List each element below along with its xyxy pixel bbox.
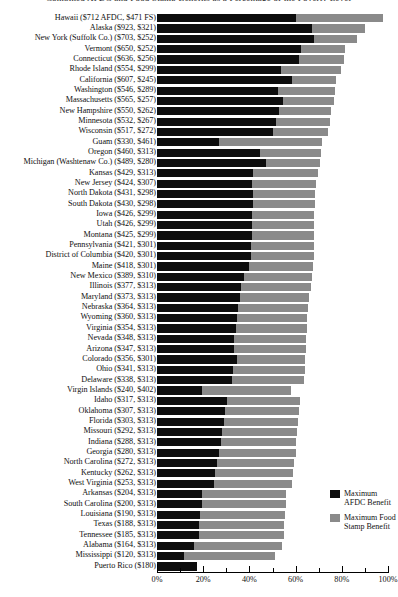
- bar-segment-food-stamp: [253, 190, 315, 198]
- bar-row: Oregon ($460, $313): [0, 147, 397, 157]
- bar-segment-food-stamp: [251, 242, 315, 250]
- legend-label: Maximum AFDC Benefit: [344, 489, 397, 508]
- stacked-bar: [157, 283, 388, 291]
- bar-segment-food-stamp: [251, 252, 315, 260]
- bar-segment-afdc: [157, 386, 202, 394]
- bar-row-label: New Hampshire ($550, $262): [60, 106, 156, 116]
- stacked-bar: [157, 138, 388, 146]
- stacked-bar: [157, 190, 388, 198]
- bar-row-label: Georgia ($280, $313): [86, 447, 156, 457]
- bar-row: Virgin Islands ($240, $402): [0, 385, 397, 395]
- bar-row-label: Minnesota ($532, $267): [78, 116, 156, 126]
- bar-row: Delaware ($338, $313): [0, 375, 397, 385]
- bar-segment-food-stamp: [266, 159, 320, 167]
- bar-segment-food-stamp: [253, 169, 318, 177]
- bar-row-label: Nevada ($348, $313): [88, 333, 156, 343]
- bar-segment-food-stamp: [202, 500, 286, 508]
- bar-segment-afdc: [157, 231, 252, 239]
- bar-segment-food-stamp: [299, 55, 344, 63]
- bar-row-label: Pennsylvania ($421, $301): [69, 240, 156, 250]
- bar-row-label: North Dakota ($431, $298): [68, 188, 156, 198]
- stacked-bar: [157, 107, 388, 115]
- bar-segment-afdc: [157, 273, 244, 281]
- bar-segment-food-stamp: [292, 76, 336, 84]
- bar-segment-afdc: [157, 149, 260, 157]
- bar-row-label: Alabama ($164, $313): [83, 540, 156, 550]
- bar-row: Virginia ($354, $313): [0, 323, 397, 333]
- stacked-bar: [157, 211, 388, 219]
- bar-segment-food-stamp: [312, 24, 365, 32]
- bar-row-label: Arkansas ($204, $313): [82, 488, 156, 498]
- bar-row-label: Guam ($330, $461): [92, 137, 156, 147]
- bar-row: Iowa ($426, $299): [0, 210, 397, 220]
- bar-row-label: Nebraska ($364, $313): [82, 302, 156, 312]
- bar-segment-afdc: [157, 45, 301, 53]
- stacked-bar: [157, 449, 388, 457]
- bar-row: Vermont ($650, $252): [0, 44, 397, 54]
- bar-segment-afdc: [157, 118, 276, 126]
- stacked-bar: [157, 469, 388, 477]
- bar-row-label: Virginia ($354, $313): [86, 323, 156, 333]
- bar-segment-afdc: [157, 169, 253, 177]
- bar-row: West Virginia ($253, $313): [0, 478, 397, 488]
- bar-segment-food-stamp: [234, 345, 306, 353]
- bar-segment-afdc: [157, 345, 234, 353]
- bar-row: Kentucky ($262, $313): [0, 468, 397, 478]
- bar-row: Indiana ($288, $313): [0, 437, 397, 447]
- bar-segment-afdc: [157, 562, 197, 570]
- bar-segment-food-stamp: [237, 355, 305, 363]
- bar-segment-afdc: [157, 87, 278, 95]
- bar-row: Maine ($418, $301): [0, 261, 397, 271]
- stacked-bar: [157, 304, 388, 312]
- x-axis-tick-major: [342, 566, 343, 573]
- bar-row-label: Mississippi ($120, $313): [76, 550, 156, 560]
- x-axis-tick-major: [249, 566, 250, 573]
- bar-segment-afdc: [157, 242, 251, 250]
- bar-row: New Hampshire ($550, $262): [0, 106, 397, 116]
- bar-row: Rhode Island ($554, $299): [0, 65, 397, 75]
- stacked-bar: [157, 480, 388, 488]
- bar-segment-afdc: [157, 76, 292, 84]
- stacked-bar: [157, 14, 388, 22]
- chart-legend: Maximum AFDC BenefitMaximum Food Stamp B…: [330, 489, 397, 537]
- bar-row-label: Vermont ($650, $252): [84, 44, 156, 54]
- bar-segment-food-stamp: [222, 428, 297, 436]
- bar-rows: Hawaii ($712 AFDC, $471 FS)Alaska ($923,…: [0, 13, 397, 572]
- bar-row-label: Alaska ($923, $321): [90, 23, 156, 33]
- x-axis-tick-minor: [365, 568, 366, 573]
- bar-row-label: Oregon ($460, $313): [88, 147, 156, 157]
- bar-row: Pennsylvania ($421, $301): [0, 241, 397, 251]
- bar-segment-afdc: [157, 366, 233, 374]
- bar-segment-afdc: [157, 521, 199, 529]
- bar-row-label: Virgin Islands ($240, $402): [67, 385, 156, 395]
- bar-segment-afdc: [157, 35, 314, 43]
- bar-row: New York (Suffolk Co.) ($703, $252): [0, 34, 397, 44]
- bar-row-label: North Carolina ($272, $313): [64, 457, 156, 467]
- bar-segment-food-stamp: [252, 211, 314, 219]
- stacked-bar: [157, 459, 388, 467]
- bar-segment-food-stamp: [283, 97, 334, 105]
- bar-row-label: Tennessee ($185, $313): [79, 530, 156, 540]
- stacked-bar: [157, 200, 388, 208]
- bar-segment-food-stamp: [199, 521, 284, 529]
- stacked-bar: [157, 397, 388, 405]
- x-axis-tick-major: [203, 566, 204, 573]
- bar-segment-food-stamp: [194, 542, 282, 550]
- bar-segment-afdc: [157, 418, 224, 426]
- legend-item: Maximum Food Stamp Benefit: [330, 513, 397, 532]
- bar-segment-food-stamp: [276, 118, 330, 126]
- stacked-bar: [157, 97, 388, 105]
- bar-segment-afdc: [157, 190, 253, 198]
- bar-row: Colorado ($356, $301): [0, 354, 397, 364]
- bar-row-label: Hawaii ($712 AFDC, $471 FS): [55, 13, 156, 23]
- bar-row: Nevada ($348, $313): [0, 334, 397, 344]
- bar-segment-afdc: [157, 500, 202, 508]
- bar-segment-afdc: [157, 531, 199, 539]
- stacked-bar: [157, 242, 388, 250]
- stacked-bar: [157, 542, 388, 550]
- bar-row: Alabama ($164, $313): [0, 541, 397, 551]
- bar-segment-afdc: [157, 283, 241, 291]
- bar-row: Minnesota ($532, $267): [0, 116, 397, 126]
- bar-segment-afdc: [157, 335, 234, 343]
- bar-row-label: New Mexico ($389, $310): [70, 271, 156, 281]
